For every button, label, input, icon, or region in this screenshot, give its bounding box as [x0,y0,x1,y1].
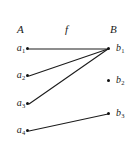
node-label-a1: a1 [3,43,25,53]
function-f-header-label: f [65,24,68,35]
node-b3 [107,112,110,115]
function-mapping-diagram: A f B a1 a2 a3 a4 b1 b2 b3 [0,0,140,151]
node-label-b3: b3 [116,108,124,118]
node-a1 [26,47,29,50]
node-b1 [107,47,110,50]
node-a2 [26,74,29,77]
node-a3 [26,102,29,105]
set-b-header-label: B [110,24,117,35]
node-label-a2: a2 [3,70,25,80]
set-a-header-label: A [17,24,24,35]
node-label-b1: b1 [116,43,124,53]
node-label-a3: a3 [3,98,25,108]
node-label-b2: b2 [116,75,124,85]
edge-a4-b3 [29,114,108,131]
edge-a3-b1 [29,49,108,104]
node-a4 [26,129,29,132]
node-b2 [107,79,110,82]
node-label-a4: a4 [3,125,25,135]
edge-a2-b1 [29,49,108,76]
